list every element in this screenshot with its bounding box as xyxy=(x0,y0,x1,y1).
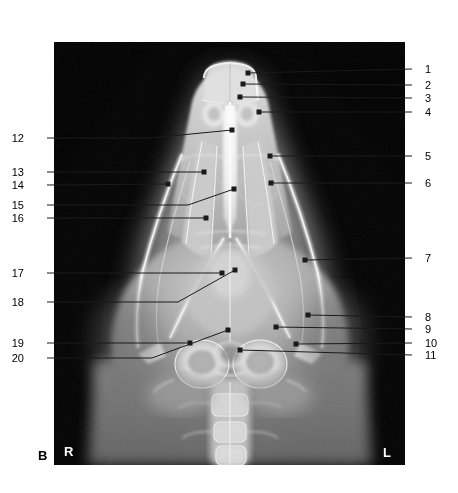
callout-number-18: 18 xyxy=(4,297,24,308)
callout-number-5: 5 xyxy=(425,151,431,162)
callout-number-8: 8 xyxy=(425,312,431,323)
callout-number-14: 14 xyxy=(4,180,24,191)
callout-number-11: 11 xyxy=(425,350,436,361)
callout-number-16: 16 xyxy=(4,213,24,224)
callout-number-20: 20 xyxy=(4,353,24,364)
callout-number-9: 9 xyxy=(425,324,431,335)
callout-number-10: 10 xyxy=(425,338,437,349)
callout-number-7: 7 xyxy=(425,253,431,264)
panel-label-b: B xyxy=(38,449,47,462)
callout-number-4: 4 xyxy=(425,107,431,118)
callout-number-2: 2 xyxy=(425,80,431,91)
right-marker: R xyxy=(64,445,73,458)
callout-number-15: 15 xyxy=(4,200,24,211)
callout-number-3: 3 xyxy=(425,93,431,104)
callout-number-19: 19 xyxy=(4,338,24,349)
figure-panel: 1234567891011121314151617181920 B R L xyxy=(0,0,458,493)
left-marker: L xyxy=(383,446,391,459)
callout-number-1: 1 xyxy=(425,64,431,75)
callout-number-6: 6 xyxy=(425,178,431,189)
callout-number-12: 12 xyxy=(4,133,24,144)
callout-number-17: 17 xyxy=(4,268,24,279)
radiograph-image xyxy=(54,42,405,465)
callout-number-13: 13 xyxy=(4,167,24,178)
